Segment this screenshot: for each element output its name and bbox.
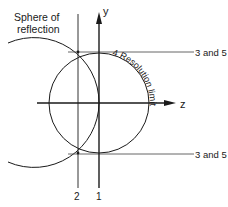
sphere-label-line1: Sphere of [14,11,60,23]
resolution-limit-label: 4 Resolution limit [111,47,158,107]
y-axis-arrowhead [96,12,102,24]
z-axis-label: z [180,98,186,110]
sphere-of-reflection-arc-bottom [8,103,99,167]
ewald-diagram: Sphere of reflection y z 3 and 5 3 and 5… [0,0,228,207]
line-3-and-5-bottom-label: 3 and 5 [195,149,227,160]
intersection-point-top [77,51,80,54]
sphere-of-reflection-arc-top [8,38,99,103]
sphere-label-line2: reflection [17,23,60,35]
line-3-and-5-top-label: 3 and 5 [195,47,227,58]
z-axis-arrowhead [164,100,176,106]
vertical-line-1-label: 1 [96,191,102,202]
intersection-point-bottom [77,152,80,155]
vertical-line-2-label: 2 [74,191,80,202]
y-axis-label: y [103,5,109,17]
resolution-limit-text: 4 Resolution limit [111,47,158,107]
